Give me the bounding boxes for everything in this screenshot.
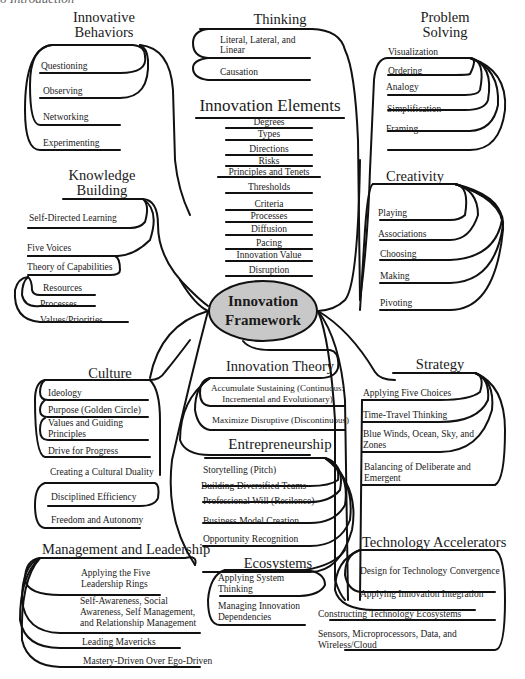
list-item: Framing — [386, 125, 418, 135]
list-item: Wireless/Cloud — [318, 641, 377, 651]
list-item: Applying Five Choices — [363, 389, 451, 399]
list-item: Mastery-Driven Over Ego-Driven — [83, 657, 212, 667]
list-item: Awareness, Self Management, — [80, 608, 195, 618]
list-item: Associations — [378, 230, 427, 240]
list-item: Applying the Five — [81, 569, 150, 579]
list-item: Sensors, Microprocessors, Data, and — [318, 630, 457, 640]
creativity-title: Creativity — [385, 169, 445, 184]
list-item: Constructing Technology Ecosystems — [318, 610, 461, 620]
innovation-theory-title: Innovation Theory — [220, 359, 340, 374]
ecosystems-title: Ecosystems — [238, 556, 318, 571]
list-item: Incremental and Evolutionary) — [205, 395, 350, 404]
list-item: Opportunity Recognition — [203, 535, 298, 545]
list-item: Risks — [218, 157, 320, 167]
list-item: Analogy — [386, 83, 419, 93]
list-item: Degrees — [218, 118, 320, 128]
list-item: Pivoting — [380, 299, 412, 309]
list-item: Principles and Tenets — [214, 168, 324, 178]
list-item: Choosing — [380, 250, 416, 260]
list-item: Playing — [378, 209, 407, 219]
list-item: Linear — [220, 46, 245, 56]
list-item: Disruption — [218, 266, 320, 276]
list-item: Principles — [48, 430, 86, 440]
list-item: Drive for Progress — [48, 447, 118, 457]
list-item: Building Diversified Teams — [201, 482, 306, 492]
list-item: Values/Priorities — [40, 316, 103, 326]
strategy-title: Strategy — [410, 357, 470, 372]
list-item: Self-Directed Learning — [29, 214, 117, 224]
innovation-framework-diagram: 6 Introduction Innovative Behaviors Ques… — [0, 0, 525, 679]
list-item: Five Voices — [27, 244, 71, 254]
list-item: Thresholds — [218, 183, 320, 193]
innovation-framework-center: Innovation Framework — [213, 292, 313, 330]
list-item: Emergent — [364, 474, 401, 484]
list-item: Dependencies — [218, 613, 271, 623]
innovative-behaviors-title: Innovative Behaviors — [64, 10, 144, 40]
list-item: Applying System — [218, 574, 284, 584]
list-item: Experimenting — [43, 139, 99, 149]
list-item: Zones — [363, 441, 386, 451]
list-item: Processes — [40, 300, 77, 310]
knowledge-building-title: Knowledge Building — [62, 168, 142, 198]
list-item: Values and Guiding — [48, 419, 123, 429]
list-item: Freedom and Autonomy — [51, 516, 143, 526]
list-item: Leading Mavericks — [82, 638, 156, 648]
innovation-elements-title: Innovation Elements — [196, 97, 344, 115]
list-item: Accumulate Sustaining (Continuous: — [205, 384, 350, 393]
list-item: Resources — [43, 284, 82, 294]
list-item: Pacing — [218, 239, 320, 249]
problem-solving-title: Problem Solving — [400, 10, 490, 40]
list-item: Professional Will (Resilence) — [203, 497, 314, 507]
list-item: Networking — [43, 113, 88, 123]
list-item: Ordering — [388, 67, 422, 77]
list-item: Balancing of Deliberate and — [364, 463, 471, 473]
list-item: Purpose (Golden Circle) — [48, 406, 141, 416]
list-item: Diffusion — [218, 225, 320, 235]
management-leadership-title: Management and Leadership — [42, 542, 187, 557]
list-item: Disciplined Efficiency — [51, 493, 137, 503]
title-line: Building — [62, 183, 142, 198]
list-item: Maximize Disruptive (Discontinuous) — [212, 416, 349, 425]
list-item: Storytelling (Pitch) — [203, 466, 276, 476]
list-item: Visualization — [388, 48, 438, 58]
list-item: Managing Innovation — [218, 602, 300, 612]
list-item: Types — [218, 130, 320, 140]
title-line: Solving — [400, 25, 490, 40]
list-item: Thinking — [218, 585, 253, 595]
list-item: and Relationship Management — [80, 619, 196, 629]
thinking-title: Thinking — [240, 12, 320, 27]
entrepreneurship-title: Entrepreneurship — [215, 437, 345, 453]
list-item: Leadership Rings — [81, 580, 148, 590]
list-item: Ideology — [48, 389, 82, 399]
list-item: Blue Winds, Ocean, Sky, and — [363, 430, 474, 440]
technology-accelerators-title: Technology Accelerators — [362, 535, 492, 550]
title-line: Problem — [400, 10, 490, 25]
list-item: Criteria — [218, 200, 320, 210]
title-line: Knowledge — [62, 168, 142, 183]
list-item: Causation — [220, 68, 258, 78]
list-item: Self-Awareness, Social — [80, 597, 168, 607]
page-header: 6 Introduction — [0, 0, 74, 6]
list-item: Creating a Cultural Duality — [50, 468, 154, 478]
list-item: Processes — [218, 212, 320, 222]
list-item: Applying Innovation Integration — [360, 590, 483, 600]
list-item: Directions — [218, 145, 320, 155]
list-item: Questioning — [41, 62, 87, 72]
list-item: Innovation Value — [218, 251, 320, 261]
list-item: Time-Travel Thinking — [363, 411, 447, 421]
title-line: Innovation — [213, 292, 313, 311]
list-item: Business Model Creation — [203, 517, 299, 527]
list-item: Design for Technology Convergence — [360, 567, 500, 577]
title-line: Framework — [213, 311, 313, 330]
culture-title: Culture — [80, 366, 140, 381]
title-line: Behaviors — [64, 25, 144, 40]
list-item: Theory of Capabilities — [27, 263, 112, 273]
list-item: Observing — [43, 87, 83, 97]
list-item: Making — [380, 272, 410, 282]
title-line: Innovative — [64, 10, 144, 25]
list-item: Simplification — [387, 105, 441, 115]
